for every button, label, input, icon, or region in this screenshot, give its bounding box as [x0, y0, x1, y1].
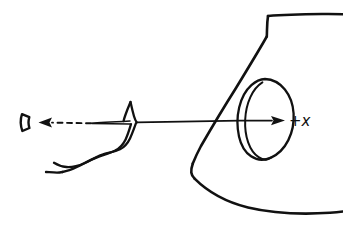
axis-label-positive-x: +x — [289, 112, 311, 130]
sketch-canvas: +x — [0, 0, 343, 234]
sketch-svg: +x — [0, 0, 343, 234]
